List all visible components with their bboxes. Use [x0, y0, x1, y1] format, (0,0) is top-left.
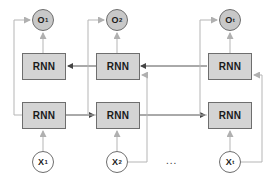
output-subscript: 2: [119, 17, 122, 23]
output-node-2: O2: [106, 9, 128, 31]
input-label: X: [38, 157, 44, 167]
backward-rnn-cell-2: RNN: [96, 53, 140, 80]
forward-rnn-cell-t: RNN: [208, 102, 252, 129]
input-subscript: 2: [119, 159, 122, 165]
input-node-t: Xt: [219, 151, 241, 173]
output-label: O: [225, 15, 232, 25]
output-node-t: Ot: [219, 9, 241, 31]
backward-rnn-cell-t: RNN: [208, 53, 252, 80]
output-subscript: 1: [45, 17, 48, 23]
forward-rnn-cell-2: RNN: [96, 102, 140, 129]
backward-rnn-cell-1: RNN: [22, 53, 66, 80]
output-node-1: O1: [32, 9, 54, 31]
output-label: O: [38, 15, 45, 25]
input-label: X: [226, 157, 232, 167]
output-label: O: [112, 15, 119, 25]
input-subscript: 1: [45, 159, 48, 165]
forward-rnn-cell-1: RNN: [22, 102, 66, 129]
output-subscript: t: [233, 17, 235, 23]
sequence-ellipsis: ...: [166, 155, 177, 166]
input-label: X: [112, 157, 118, 167]
input-node-2: X2: [106, 151, 128, 173]
input-node-1: X1: [32, 151, 54, 173]
input-subscript: t: [232, 159, 234, 165]
